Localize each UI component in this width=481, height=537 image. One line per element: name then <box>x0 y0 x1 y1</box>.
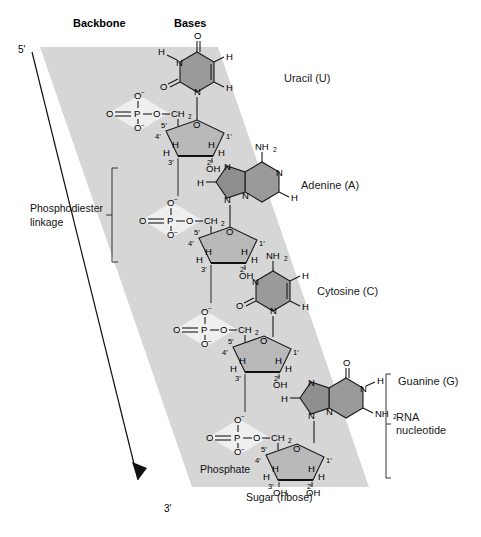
label-uracil: Uracil (U) <box>284 72 330 84</box>
svg-text:2: 2 <box>255 329 259 336</box>
sugar-1-ring-o: O <box>193 119 200 130</box>
header-bases: Bases <box>174 17 206 29</box>
uracil-h-n3: H <box>158 46 165 57</box>
sugar-1-h4: H <box>172 139 179 150</box>
phosphate-3-p: P <box>201 324 207 335</box>
sugar-2-h4b: H <box>196 254 203 265</box>
label-adenine: Adenine (A) <box>301 179 359 191</box>
sugar-2-c1: 1′ <box>259 239 265 248</box>
svg-text:−: − <box>241 413 245 420</box>
sugar-4-c1: 1′ <box>326 456 332 465</box>
svg-text:2: 2 <box>273 146 277 153</box>
svg-text:−: − <box>141 89 145 96</box>
adenine-n3: N <box>242 190 249 201</box>
guanine-o6: O <box>343 357 350 368</box>
three-prime-label: 3′ <box>164 503 172 514</box>
sugar-4-h1b: H <box>318 471 325 482</box>
sugar-2-h1: H <box>241 246 248 257</box>
cytosine-nh2: NH <box>266 250 280 261</box>
sugar-2-h4: H <box>205 246 212 257</box>
svg-text:2: 2 <box>188 113 192 120</box>
guanine-n1: N <box>360 383 367 394</box>
phosphate-3-o-double: O <box>173 324 180 335</box>
sugar-3-h4: H <box>239 355 246 366</box>
guanine-h-n1: H <box>377 375 384 386</box>
svg-text:2: 2 <box>221 220 225 227</box>
cytosine-h-c6: H <box>302 301 309 312</box>
sugar-3-c3: 3′ <box>235 374 241 383</box>
uracil-h-c5: H <box>226 51 233 62</box>
label-sugar-ribose: Sugar (ribose) <box>246 491 313 503</box>
phosphate-2-o-double: O <box>139 215 146 226</box>
sugar-3-c4: 4′ <box>222 348 228 357</box>
label-cytosine: Cytosine (C) <box>317 285 378 297</box>
sugar-1-c3: 3′ <box>168 158 174 167</box>
svg-text:2: 2 <box>288 437 292 444</box>
cytosine-n1: N <box>270 305 277 316</box>
guanine-n7: N <box>308 377 315 388</box>
cytosine-h-c5: H <box>302 270 309 281</box>
sugar-1-h1: H <box>208 139 215 150</box>
svg-text:−: − <box>174 196 178 203</box>
phosphate-1-o-bridge: O <box>153 108 160 119</box>
label-phosphodiester-line2: linkage <box>30 216 63 228</box>
sugar-1-c4: 4′ <box>155 132 161 141</box>
adenine-h-c8: H <box>197 177 204 188</box>
phosphate-1-o-double: O <box>106 108 113 119</box>
sugar-3-c5: 5′ <box>228 337 234 346</box>
guanine-nh2: NH <box>375 408 389 419</box>
svg-text:−: − <box>208 338 212 345</box>
label-phosphodiester-line1: Phosphodiester <box>30 202 103 214</box>
sugar-2-c5: 5′ <box>194 228 200 237</box>
sugar-1-c1: 1′ <box>226 132 232 141</box>
sugar-4-h4: H <box>272 463 279 474</box>
sugar-3-h1: H <box>275 355 282 366</box>
header-backbone: Backbone <box>73 17 126 29</box>
svg-text:−: − <box>208 305 212 312</box>
sugar-4-h4b: H <box>263 471 270 482</box>
sugar-2-c3: 3′ <box>201 265 207 274</box>
svg-text:2: 2 <box>284 255 288 262</box>
five-prime-label: 5′ <box>18 44 26 55</box>
rna-nucleotide-bracket <box>386 374 391 478</box>
sugar-3-oh2: OH <box>273 379 287 390</box>
sugar-1-ch2: CH <box>171 108 185 119</box>
guanine-n3: N <box>326 406 333 417</box>
sugar-3-ring-o: O <box>260 335 267 346</box>
phosphate-4-o-double: O <box>206 432 213 443</box>
sugar-1-h4b: H <box>163 147 170 158</box>
svg-text:−: − <box>241 446 245 453</box>
phosphate-2-p: P <box>167 215 173 226</box>
sugar-3-h1b: H <box>285 363 292 374</box>
uracil-n1: N <box>194 86 201 97</box>
sugar-2-c4: 4′ <box>188 239 194 248</box>
sugar-4-ch2: CH <box>271 432 285 443</box>
label-phosphate: Phosphate <box>200 463 250 475</box>
uracil-o2: O <box>160 81 167 92</box>
phosphate-3-o-bridge: O <box>220 324 227 335</box>
sugar-1-oh2: OH <box>206 163 220 174</box>
adenine-n9: N <box>224 194 231 205</box>
sugar-4-c5: 5′ <box>261 445 267 454</box>
cytosine-o2: O <box>236 300 243 311</box>
sugar-2-ch2: CH <box>204 215 218 226</box>
sugar-3-c1: 1′ <box>293 348 299 357</box>
label-rna-nucleotide-line2: nucleotide <box>396 424 446 436</box>
adenine-n7: N <box>224 161 231 172</box>
phosphate-4-o-bridge: O <box>253 432 260 443</box>
svg-text:−: − <box>141 122 145 129</box>
sugar-4-ring-o: O <box>293 443 300 454</box>
rna-structure-figure: 5′ 3′ Backbone Bases O O N H <box>0 0 481 537</box>
sugar-2-ring-o: O <box>226 226 233 237</box>
cytosine-n3: N <box>252 276 259 287</box>
uracil-n3: N <box>176 57 183 68</box>
sugar-4-h1: H <box>308 463 315 474</box>
adenine-h-c2: H <box>291 192 298 203</box>
sugar-4-c4: 4′ <box>255 456 261 465</box>
guanine-n9: N <box>308 410 315 421</box>
uracil-h-c6: H <box>226 82 233 93</box>
adenine-n1: N <box>276 167 283 178</box>
phosphate-2-o-bridge: O <box>186 215 193 226</box>
svg-text:−: − <box>174 229 178 236</box>
phosphate-1-p: P <box>134 108 140 119</box>
